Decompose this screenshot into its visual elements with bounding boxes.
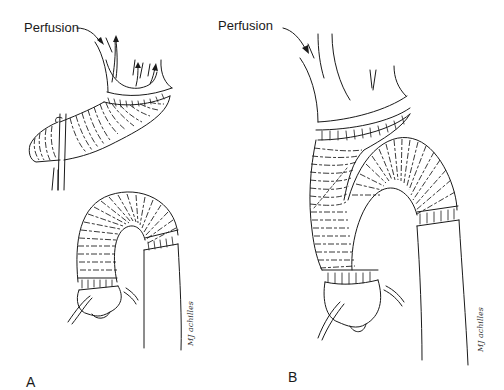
artist-signature-b: MJ achilles [476, 307, 485, 352]
perfusion-arrow-icon [77, 28, 100, 42]
panel-letter-b: B [288, 369, 297, 385]
panel-b-illustration [252, 0, 504, 390]
panel-b: Perfusion B MJ achilles [252, 0, 504, 390]
perfusion-label-a: Perfusion [24, 20, 79, 35]
perfusion-arrow-icon [283, 28, 306, 50]
perfusion-label-b: Perfusion [218, 18, 273, 33]
panel-a: Perfusion A MJ achilles [0, 0, 252, 390]
artist-signature-a: MJ achilles [186, 301, 195, 346]
panel-letter-a: A [26, 374, 35, 390]
panel-a-illustration [0, 0, 252, 390]
